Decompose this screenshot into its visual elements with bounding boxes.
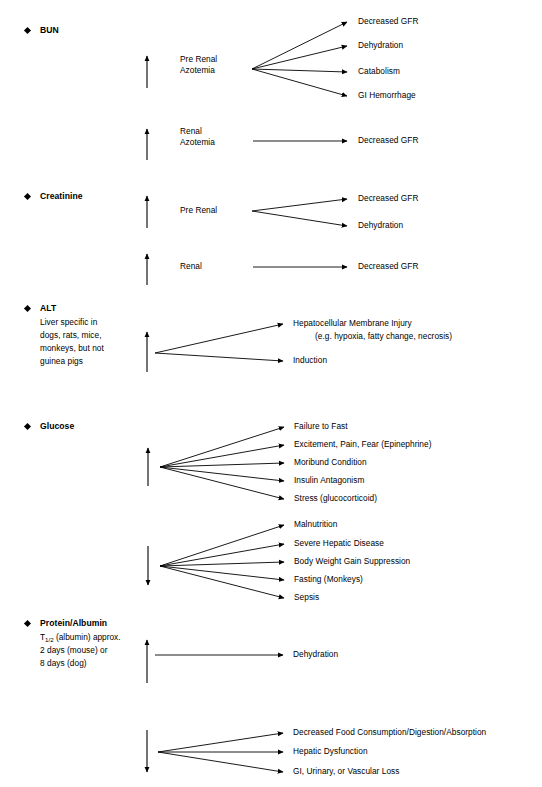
cause-glucose-down-1: Malnutrition [294, 519, 337, 530]
protein-note-rest: (albumin) approx. [54, 632, 121, 642]
section-heading-bun: BUN [40, 25, 59, 35]
cause-glucose-down-3: Body Weight Gain Suppression [294, 556, 410, 567]
cause-protein-down-2: Hepatic Dysfunction [293, 746, 368, 757]
cause-bun-prerenal-1: Decreased GFR [358, 16, 418, 27]
cause-glucose-up-5: Stress (glucocorticoid) [294, 493, 377, 504]
section-note-alt-2: dogs, rats, mice, [40, 330, 102, 341]
cause-creatinine-prerenal-2: Dehydration [358, 220, 403, 231]
mediator-bun-renal-line2: Azotemia [180, 137, 215, 148]
cause-bun-prerenal-3: Catabolism [358, 66, 400, 77]
section-note-alt-4: guinea pigs [40, 356, 83, 367]
cause-bun-prerenal-2: Dehydration [358, 40, 403, 51]
diagram-page: BUN Pre Renal Azotemia Decreased GFR Deh… [0, 0, 542, 787]
cause-glucose-up-3: Moribund Condition [294, 457, 367, 468]
section-note-protein-3: 8 days (dog) [40, 658, 87, 669]
cause-glucose-down-5: Sepsis [294, 592, 319, 603]
section-note-alt-3: monkeys, but not [40, 343, 104, 354]
cause-glucose-up-1: Failure to Fast [294, 421, 348, 432]
cause-glucose-up-4: Insulin Antagonism [294, 475, 364, 486]
cause-protein-up-1: Dehydration [293, 649, 338, 660]
cause-alt-1: Hepatocellular Membrane Injury [293, 318, 412, 329]
cause-alt-1-detail: (e.g. hypoxia, fatty change, necrosis) [293, 331, 452, 342]
section-note-alt-1: Liver specific in [40, 317, 97, 328]
section-note-protein-2: 2 days (mouse) or [40, 645, 108, 656]
mediator-creatinine-prerenal: Pre Renal [180, 205, 217, 216]
section-heading-glucose: Glucose [40, 421, 74, 431]
cause-alt-2: Induction [293, 355, 327, 366]
connector-fan-glucose-decrease [160, 525, 284, 598]
cause-creatinine-renal-1: Decreased GFR [358, 261, 418, 272]
connector-fan-bun-prerenal [252, 22, 347, 96]
mediator-creatinine-renal: Renal [180, 261, 202, 272]
section-heading-protein: Protein/Albumin [40, 618, 107, 628]
protein-note-half: 1/2 [45, 636, 54, 643]
section-heading-alt: ALT [40, 303, 56, 313]
cause-glucose-down-2: Severe Hepatic Disease [294, 538, 384, 549]
cause-bun-prerenal-4: GI Hemorrhage [358, 90, 416, 101]
mediator-bun-prerenal-line1: Pre Renal [180, 54, 217, 65]
connector-fan-alt [155, 324, 283, 361]
cause-glucose-up-2: Excitement, Pain, Fear (Epinephrine) [294, 439, 431, 450]
connector-fan-creatinine-prerenal [252, 199, 347, 226]
cause-creatinine-prerenal-1: Decreased GFR [358, 193, 418, 204]
cause-protein-down-1: Decreased Food Consumption/Digestion/Abs… [293, 727, 486, 738]
section-note-protein-1: T1/2 (albumin) approx. [40, 631, 121, 645]
connector-fan-glucose-increase [160, 427, 284, 499]
cause-protein-down-3: GI, Urinary, or Vascular Loss [293, 766, 399, 777]
mediator-bun-prerenal-line2: Azotemia [180, 65, 215, 76]
cause-bun-renal-1: Decreased GFR [358, 135, 418, 146]
connector-fan-protein-decrease [158, 733, 283, 772]
section-heading-creatinine: Creatinine [40, 191, 83, 201]
mediator-bun-renal-line1: Renal [180, 126, 202, 137]
cause-glucose-down-4: Fasting (Monkeys) [294, 574, 363, 585]
